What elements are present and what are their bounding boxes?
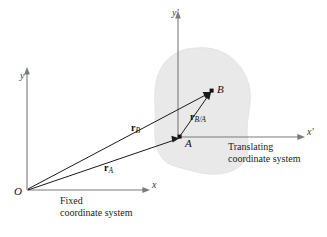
- y-axis-arrowhead: [24, 67, 30, 75]
- x-axis-arrowhead: [142, 187, 150, 193]
- fixed-frame-caption-line2: coordinate system: [60, 207, 132, 219]
- vector-r-B-subscript: B: [135, 126, 140, 135]
- vector-r-A-label: rA: [104, 163, 113, 174]
- origin-label: O: [14, 186, 22, 197]
- vector-r-A-subscript: A: [108, 166, 113, 175]
- translating-frame-caption-line2: coordinate system: [228, 153, 300, 165]
- y-axis-label: y: [20, 71, 24, 81]
- fixed-frame-caption-line1: Fixed: [60, 195, 132, 207]
- figure-root: y x O y' x' A B rA rB rB/A Fixed coordin…: [0, 0, 327, 237]
- point-A-label: A: [185, 138, 192, 149]
- vector-r-B-over-A-label: rB/A: [190, 112, 206, 123]
- y-prime-axis-label: y': [172, 8, 179, 18]
- translating-frame-caption-line1: Translating: [228, 141, 300, 153]
- translating-frame-caption: Translating coordinate system: [228, 141, 300, 165]
- vector-r-B-label: rB: [131, 123, 140, 134]
- vector-r-B-over-A-subscript: B/A: [194, 115, 206, 124]
- figure-canvas: [0, 0, 327, 237]
- x-prime-axis-arrowhead: [297, 134, 305, 140]
- point-B-marker: [210, 89, 214, 93]
- fixed-frame-caption: Fixed coordinate system: [60, 195, 132, 219]
- x-axis-label: x: [152, 180, 156, 190]
- point-B-label: B: [217, 84, 224, 95]
- point-A-marker: [178, 135, 182, 139]
- x-prime-axis-label: x': [307, 127, 314, 137]
